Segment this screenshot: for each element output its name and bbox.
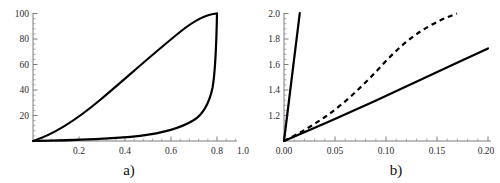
- panel-a-ytick-0: 20: [20, 111, 30, 121]
- figure-container: 0.2 0.4 0.6 0.8 1.0 20 40 60 80 100 a): [0, 0, 500, 183]
- panel-a-xtick-4: 1.0: [237, 146, 249, 156]
- panel-b-x-tick-labels: 0.00 0.05 0.10 0.15 0.20: [276, 146, 495, 156]
- panel-b-xtick-0: 0.00: [276, 146, 293, 156]
- panel-a-ytick-2: 60: [20, 60, 30, 70]
- panel-a-ytick-3: 80: [20, 34, 30, 44]
- panel-b-caption: b): [390, 162, 403, 179]
- panel-b-xtick-1: 0.05: [327, 146, 344, 156]
- panel-b-plot: 0.00 0.05 0.10 0.15 0.20 1.2 1.4 1.6 1.8…: [250, 0, 500, 183]
- panel-b-ytick-2: 1.6: [268, 60, 280, 70]
- panel-a-xtick-2: 0.6: [165, 146, 177, 156]
- panel-a-xtick-3: 0.8: [211, 146, 223, 156]
- chart-panel-b: 0.00 0.05 0.10 0.15 0.20 1.2 1.4 1.6 1.8…: [250, 0, 500, 183]
- panel-a-xtick-0: 0.2: [73, 146, 85, 156]
- panel-b-dashed-curve-main: [284, 14, 457, 142]
- panel-a-plot: 0.2 0.4 0.6 0.8 1.0 20 40 60 80 100 a): [0, 0, 250, 183]
- chart-panel-a: 0.2 0.4 0.6 0.8 1.0 20 40 60 80 100 a): [0, 0, 250, 183]
- panel-b-ytick-4: 2.0: [268, 9, 280, 19]
- panel-b-ytick-0: 1.2: [268, 111, 280, 121]
- panel-a-y-tick-labels: 20 40 60 80 100: [15, 9, 30, 121]
- panel-b-xtick-2: 0.10: [378, 146, 395, 156]
- panel-b-ytick-1: 1.4: [268, 85, 280, 95]
- panel-b-y-tick-labels: 1.2 1.4 1.6 1.8 2.0: [268, 9, 280, 121]
- panel-b-steep-solid-curve: [284, 13, 300, 141]
- panel-b-ytick-3: 1.8: [268, 34, 280, 44]
- panel-b-xtick-4: 0.20: [478, 146, 495, 156]
- panel-a-ytick-1: 40: [20, 85, 30, 95]
- panel-b-xtick-3: 0.15: [429, 146, 446, 156]
- panel-a-xtick-1: 0.4: [119, 146, 131, 156]
- panel-a-x-tick-labels: 0.2 0.4 0.6 0.8 1.0: [73, 146, 249, 156]
- panel-a-caption: a): [123, 162, 135, 179]
- panel-a-ytick-4: 100: [15, 9, 30, 19]
